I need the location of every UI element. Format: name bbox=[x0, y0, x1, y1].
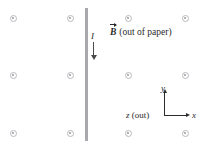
y-axis-label: y bbox=[161, 84, 165, 93]
field-out-of-page-icon bbox=[10, 72, 17, 79]
z-axis-label: z (out) bbox=[126, 111, 149, 120]
field-out-of-page-icon bbox=[125, 15, 132, 22]
x-axis-line bbox=[164, 115, 186, 116]
field-out-of-page-icon bbox=[67, 72, 74, 79]
field-out-of-page-icon bbox=[10, 15, 17, 22]
field-out-of-page-icon bbox=[125, 72, 132, 79]
current-carrying-wire bbox=[85, 8, 88, 141]
b-vector-description: (out of paper) bbox=[116, 27, 171, 37]
current-label: I bbox=[91, 32, 94, 41]
x-axis-arrowhead-icon bbox=[186, 113, 190, 117]
field-out-of-page-icon bbox=[182, 72, 189, 79]
field-out-of-page-icon bbox=[125, 130, 132, 137]
y-axis-line bbox=[164, 93, 165, 115]
physics-figure-canvas: I B(out of paper) y x z (out) bbox=[0, 0, 202, 144]
field-out-of-page-icon bbox=[182, 15, 189, 22]
current-arrow-shaft bbox=[93, 42, 94, 56]
field-out-of-page-icon bbox=[67, 15, 74, 22]
field-out-of-page-icon bbox=[182, 130, 189, 137]
field-out-of-page-icon bbox=[67, 130, 74, 137]
b-vector-symbol: B bbox=[110, 27, 116, 37]
field-out-of-page-icon bbox=[10, 130, 17, 137]
x-axis-label: x bbox=[192, 111, 196, 120]
current-arrow-head-down-icon bbox=[91, 55, 97, 60]
magnetic-field-label: B(out of paper) bbox=[110, 28, 172, 38]
z-axis-direction: (out) bbox=[130, 110, 150, 120]
